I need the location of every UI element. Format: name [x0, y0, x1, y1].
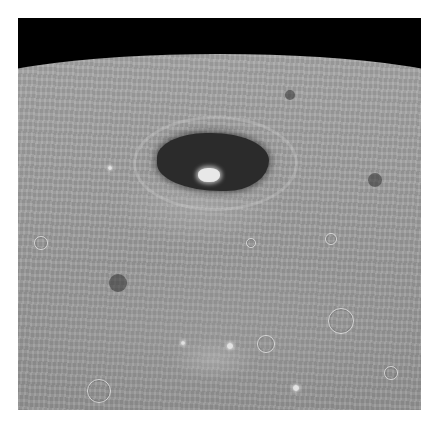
dark-spot [285, 90, 295, 100]
small-crater [328, 308, 354, 334]
small-crater [257, 335, 275, 353]
lunar-photo [18, 18, 421, 410]
bright-spot [181, 341, 185, 345]
small-crater [325, 233, 337, 245]
dark-spot [368, 173, 382, 187]
dark-spot [109, 274, 127, 292]
small-crater [384, 366, 398, 380]
small-crater [34, 236, 48, 250]
lunar-surface [18, 54, 421, 410]
small-crater [87, 379, 111, 403]
bright-spot [227, 343, 233, 349]
small-crater [246, 238, 256, 248]
dark-crater-floor [157, 133, 269, 191]
bright-spot [293, 385, 299, 391]
central-peak [198, 168, 220, 182]
bright-spot [108, 166, 112, 170]
